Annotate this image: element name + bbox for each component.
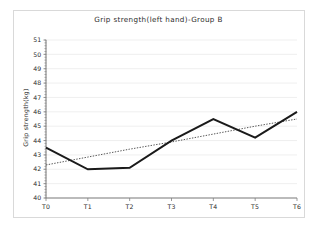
y-tick-label: 42 — [33, 165, 41, 172]
x-tick-label: T6 — [292, 203, 301, 210]
y-tick-label: 51 — [33, 36, 41, 43]
y-axis-ticks-group: 404142434445464748495051 — [33, 36, 46, 201]
y-tick-label: 43 — [33, 151, 41, 158]
chart-figure: Grip strength(left hand)-Group B Grip st… — [0, 0, 317, 228]
y-tick-label: 46 — [33, 108, 41, 115]
y-tick-label: 48 — [33, 79, 41, 86]
y-tick-label: 41 — [33, 180, 41, 187]
y-tick-label: 49 — [33, 65, 41, 72]
y-tick-label: 47 — [33, 94, 41, 101]
x-tick-label: T1 — [83, 203, 92, 210]
x-tick-label: T5 — [250, 203, 259, 210]
y-tick-label: 50 — [33, 51, 41, 58]
x-tick-label: T0 — [41, 203, 50, 210]
x-tick-label: T2 — [125, 203, 134, 210]
x-axis-ticks-group: T0T1T2T3T4T5T6 — [41, 198, 301, 210]
y-tick-label: 44 — [33, 137, 41, 144]
plot-area: 404142434445464748495051 T0T1T2T3T4T5T6 — [0, 0, 317, 228]
gridlines-group — [46, 40, 297, 198]
x-tick-label: T3 — [166, 203, 175, 210]
x-tick-label: T4 — [208, 203, 217, 210]
y-tick-label: 40 — [33, 194, 41, 201]
y-tick-label: 45 — [33, 122, 41, 129]
